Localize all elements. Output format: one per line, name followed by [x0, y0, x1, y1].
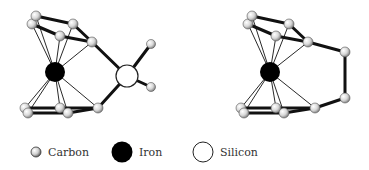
iron-atom	[260, 62, 280, 82]
structure-silicon-bridged	[20, 11, 156, 118]
ferrocenophane-diagram	[0, 0, 369, 130]
silicon-atom	[116, 65, 138, 87]
iron-atom	[45, 62, 65, 82]
legend: Carbon Iron Silicon	[0, 138, 369, 166]
carbon-atom-icon	[30, 146, 42, 158]
legend-item-iron: Iron	[111, 138, 162, 166]
iron-carbon-bonds	[241, 16, 315, 113]
legend-label-silicon: Silicon	[220, 146, 258, 159]
iron-atom-icon	[111, 141, 133, 163]
structure-carbon-bridged	[236, 11, 350, 118]
legend-item-carbon: Carbon	[30, 138, 89, 166]
legend-item-silicon: Silicon	[192, 138, 258, 166]
legend-label-iron: Iron	[139, 146, 162, 159]
silicon-atom-icon	[192, 141, 214, 163]
carbon-bridge-bonds	[308, 42, 345, 108]
legend-label-carbon: Carbon	[48, 146, 89, 159]
